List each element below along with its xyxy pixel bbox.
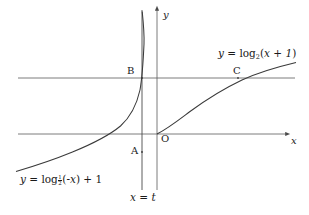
eq-log2-equals: = bbox=[227, 47, 236, 59]
point-marker-C bbox=[237, 77, 239, 79]
point-marker-B bbox=[141, 77, 143, 79]
equation-label-log2: y = log2(x + 1) bbox=[218, 48, 296, 60]
eq-log2-argument: x + 1 bbox=[264, 47, 292, 59]
math-figure: y x B C A O y = log2(x + 1) y = log12(-x… bbox=[0, 0, 309, 215]
xt-t: t bbox=[151, 191, 155, 203]
curve-log-half bbox=[16, 12, 144, 172]
eq-loghalf-equals: = bbox=[29, 173, 38, 185]
eq-loghalf-argument: -x bbox=[66, 173, 75, 185]
origin-label-O: O bbox=[161, 134, 169, 144]
point-marker-A bbox=[141, 151, 143, 153]
xt-equals: = bbox=[139, 191, 148, 203]
point-label-C: C bbox=[233, 66, 241, 76]
curve-log2 bbox=[157, 63, 296, 135]
x-axis-label: x bbox=[291, 136, 297, 146]
y-axis-label: y bbox=[163, 10, 169, 20]
eq-loghalf-base-fraction: 12 bbox=[58, 175, 62, 187]
point-label-A: A bbox=[131, 146, 138, 156]
equation-label-log-half: y = log12(-x) + 1 bbox=[20, 174, 102, 186]
eq-log2-log: log bbox=[239, 47, 255, 59]
label-x-equals-t: x = t bbox=[130, 192, 156, 203]
eq-loghalf-log: log bbox=[41, 173, 57, 185]
point-label-B: B bbox=[127, 66, 134, 76]
eq-loghalf-plus-one: + 1 bbox=[83, 173, 102, 185]
eq-loghalf-base-denominator: 2 bbox=[58, 180, 62, 187]
eq-log2-paren-close: ) bbox=[292, 47, 296, 59]
